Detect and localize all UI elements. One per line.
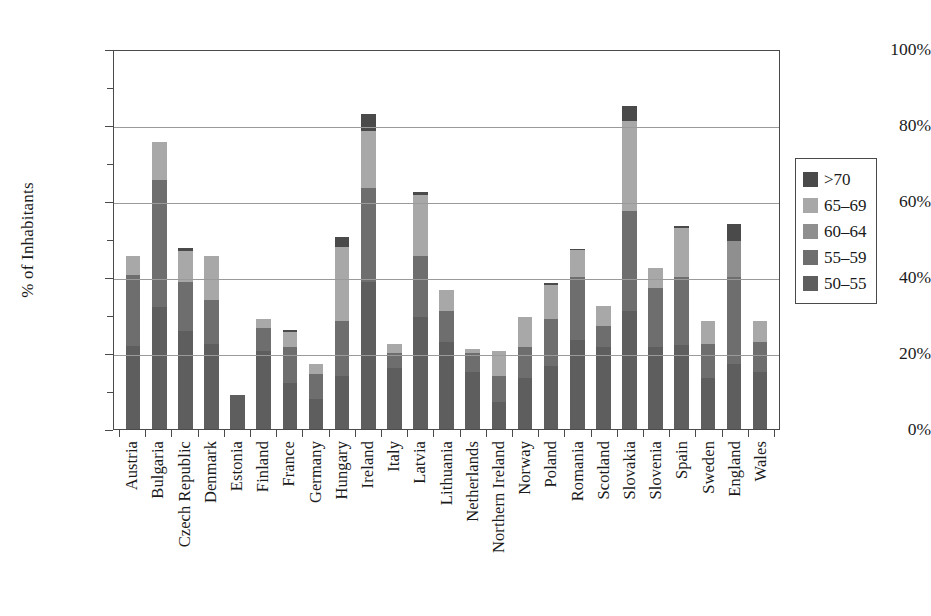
stacked-bar[interactable] — [230, 395, 245, 429]
bar-column[interactable] — [434, 51, 460, 429]
bar-segment[interactable] — [701, 344, 716, 378]
bar-segment[interactable] — [622, 121, 637, 210]
bar-segment[interactable] — [256, 319, 271, 329]
bar-segment[interactable] — [727, 224, 742, 241]
bar-segment[interactable] — [126, 346, 141, 429]
bar-column[interactable] — [590, 51, 616, 429]
bar-segment[interactable] — [413, 256, 428, 317]
bar-column[interactable] — [198, 51, 224, 429]
bar-column[interactable] — [616, 51, 642, 429]
bar-column[interactable] — [381, 51, 407, 429]
bar-segment[interactable] — [309, 399, 324, 429]
bar-column[interactable] — [120, 51, 146, 429]
bar-segment[interactable] — [309, 374, 324, 399]
bar-segment[interactable] — [518, 317, 533, 347]
stacked-bar[interactable] — [492, 351, 507, 429]
legend-item[interactable]: >70 — [803, 166, 867, 192]
stacked-bar[interactable] — [465, 349, 480, 429]
bar-segment[interactable] — [727, 277, 742, 364]
bar-column[interactable] — [643, 51, 669, 429]
bar-segment[interactable] — [570, 250, 585, 277]
bar-segment[interactable] — [701, 321, 716, 344]
bar-segment[interactable] — [126, 275, 141, 346]
legend-item[interactable]: 65–69 — [803, 192, 867, 218]
stacked-bar[interactable] — [648, 268, 663, 429]
legend-item[interactable]: 50–55 — [803, 270, 867, 296]
bar-segment[interactable] — [256, 351, 271, 429]
bar-column[interactable] — [225, 51, 251, 429]
bar-column[interactable] — [277, 51, 303, 429]
bar-segment[interactable] — [596, 347, 611, 429]
bar-segment[interactable] — [413, 195, 428, 256]
bar-segment[interactable] — [152, 180, 167, 307]
bar-segment[interactable] — [622, 211, 637, 312]
bar-segment[interactable] — [544, 366, 559, 429]
bar-segment[interactable] — [544, 319, 559, 367]
bar-segment[interactable] — [335, 247, 350, 321]
stacked-bar[interactable] — [439, 290, 454, 429]
bar-segment[interactable] — [126, 256, 141, 275]
bar-segment[interactable] — [204, 256, 219, 300]
bar-segment[interactable] — [674, 277, 689, 345]
bar-segment[interactable] — [439, 290, 454, 311]
stacked-bar[interactable] — [283, 330, 298, 429]
bar-segment[interactable] — [465, 372, 480, 429]
bar-segment[interactable] — [648, 347, 663, 429]
bar-segment[interactable] — [596, 326, 611, 347]
bar-segment[interactable] — [152, 307, 167, 429]
stacked-bar[interactable] — [518, 317, 533, 429]
bar-segment[interactable] — [361, 131, 376, 188]
stacked-bar[interactable] — [674, 226, 689, 429]
bar-segment[interactable] — [361, 188, 376, 282]
bar-segment[interactable] — [283, 383, 298, 429]
stacked-bar[interactable] — [596, 306, 611, 429]
bar-segment[interactable] — [596, 306, 611, 327]
bar-segment[interactable] — [413, 317, 428, 429]
bar-column[interactable] — [303, 51, 329, 429]
legend-item[interactable]: 55–59 — [803, 244, 867, 270]
bar-column[interactable] — [146, 51, 172, 429]
stacked-bar[interactable] — [204, 256, 219, 429]
bar-column[interactable] — [251, 51, 277, 429]
bar-segment[interactable] — [204, 300, 219, 344]
bar-segment[interactable] — [230, 395, 245, 429]
bar-column[interactable] — [669, 51, 695, 429]
stacked-bar[interactable] — [570, 249, 585, 429]
stacked-bar[interactable] — [126, 256, 141, 429]
bar-segment[interactable] — [178, 282, 193, 331]
bar-column[interactable] — [460, 51, 486, 429]
bar-segment[interactable] — [335, 237, 350, 247]
bar-segment[interactable] — [701, 378, 716, 429]
bar-segment[interactable] — [622, 106, 637, 121]
bar-segment[interactable] — [570, 340, 585, 429]
bar-segment[interactable] — [283, 332, 298, 347]
bar-column[interactable] — [538, 51, 564, 429]
stacked-bar[interactable] — [387, 344, 402, 429]
bar-segment[interactable] — [648, 288, 663, 347]
bar-segment[interactable] — [727, 241, 742, 277]
bar-column[interactable] — [329, 51, 355, 429]
bar-segment[interactable] — [204, 344, 219, 430]
bar-segment[interactable] — [152, 142, 167, 180]
bar-segment[interactable] — [178, 331, 193, 429]
bar-segment[interactable] — [283, 347, 298, 383]
bar-column[interactable] — [355, 51, 381, 429]
stacked-bar[interactable] — [753, 321, 768, 429]
bar-segment[interactable] — [439, 311, 454, 341]
bar-segment[interactable] — [518, 378, 533, 429]
stacked-bar[interactable] — [178, 248, 193, 429]
bar-segment[interactable] — [309, 364, 324, 374]
bar-column[interactable] — [512, 51, 538, 429]
bar-segment[interactable] — [492, 402, 507, 429]
stacked-bar[interactable] — [335, 237, 350, 429]
bar-segment[interactable] — [753, 321, 768, 342]
stacked-bar[interactable] — [256, 319, 271, 429]
bar-segment[interactable] — [361, 114, 376, 131]
bar-column[interactable] — [747, 51, 773, 429]
bar-column[interactable] — [172, 51, 198, 429]
bar-segment[interactable] — [648, 268, 663, 289]
bar-column[interactable] — [695, 51, 721, 429]
bar-segment[interactable] — [674, 228, 689, 277]
bar-segment[interactable] — [753, 342, 768, 372]
bar-segment[interactable] — [727, 364, 742, 429]
